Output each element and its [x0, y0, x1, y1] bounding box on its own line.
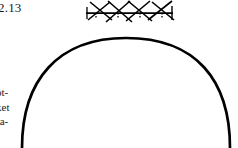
hatch-stroke — [88, 2, 110, 20]
hatch-stroke — [126, 1, 150, 21]
hatch-stroke — [128, 1, 152, 21]
figure-canvas: 2.13 ot- ket ra- — [0, 0, 238, 148]
figure-drawing — [0, 0, 238, 148]
semicircular-arch-curve — [22, 38, 230, 148]
hatch-stroke — [148, 1, 172, 20]
hatched-support-symbol — [86, 1, 174, 22]
hatch-stroke — [90, 2, 112, 20]
hatch-stroke — [152, 2, 174, 20]
hatch-stroke — [106, 1, 130, 22]
